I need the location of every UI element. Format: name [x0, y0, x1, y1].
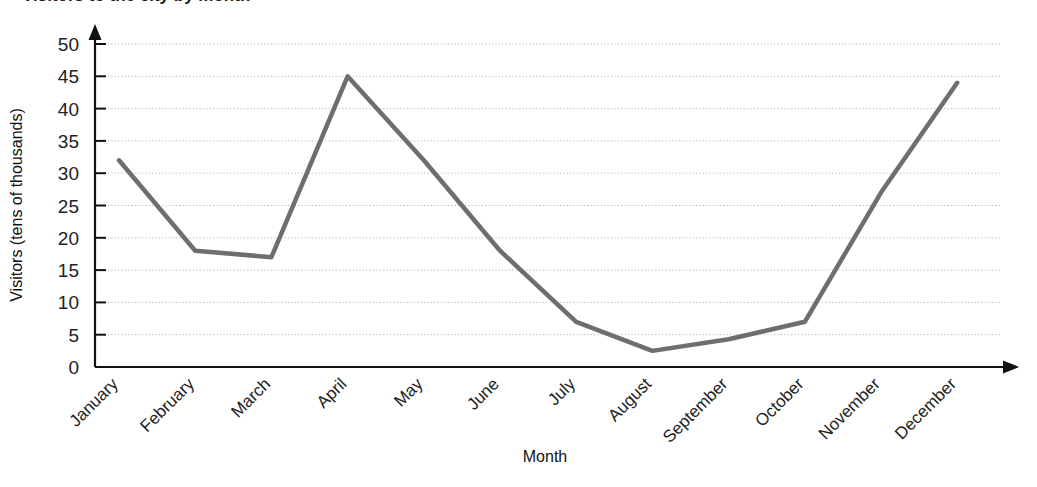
y-tick-label: 40: [58, 99, 79, 120]
x-tick-label-july: July: [544, 374, 579, 409]
y-tick-label: 50: [58, 34, 79, 55]
gridlines-group: [101, 44, 1000, 335]
x-axis-title: Month: [523, 448, 567, 465]
x-tick-label-april: April: [313, 374, 350, 411]
y-tick-label: 5: [68, 325, 79, 346]
x-tick-label-october: October: [751, 374, 807, 430]
chart-canvas: 05101520253035404550 JanuaryFebruaryMarc…: [0, 0, 1037, 487]
x-tick-label-march: March: [227, 374, 274, 421]
x-tick-label-november: November: [815, 374, 884, 443]
x-tick-label-june: June: [463, 374, 503, 414]
data-series-line: [119, 76, 957, 351]
y-tick-label: 35: [58, 131, 79, 152]
x-tick-label-january: January: [66, 374, 123, 431]
y-axis-arrow: [89, 24, 102, 40]
x-axis-arrow: [1003, 361, 1019, 374]
y-tick-label: 20: [58, 228, 79, 249]
y-tick-label: 45: [58, 66, 79, 87]
y-axis-title: Visitors (tens of thousands): [8, 108, 25, 302]
y-tick-group: 05101520253035404550: [58, 34, 106, 378]
y-tick-label: 25: [58, 196, 79, 217]
x-tick-label-may: May: [390, 374, 426, 410]
y-tick-label: 15: [58, 260, 79, 281]
x-tick-label-group: JanuaryFebruaryMarchAprilMayJuneJulyAugu…: [66, 374, 961, 447]
x-tick-label-september: September: [659, 374, 731, 446]
x-tick-label-december: December: [891, 374, 960, 443]
x-tick-label-august: August: [604, 374, 655, 425]
y-tick-label: 0: [68, 357, 79, 378]
y-tick-label: 30: [58, 163, 79, 184]
y-tick-label: 10: [58, 292, 79, 313]
x-tick-label-february: February: [136, 374, 198, 436]
line-chart: Visitors to the city by month 0510152025…: [0, 0, 1037, 487]
